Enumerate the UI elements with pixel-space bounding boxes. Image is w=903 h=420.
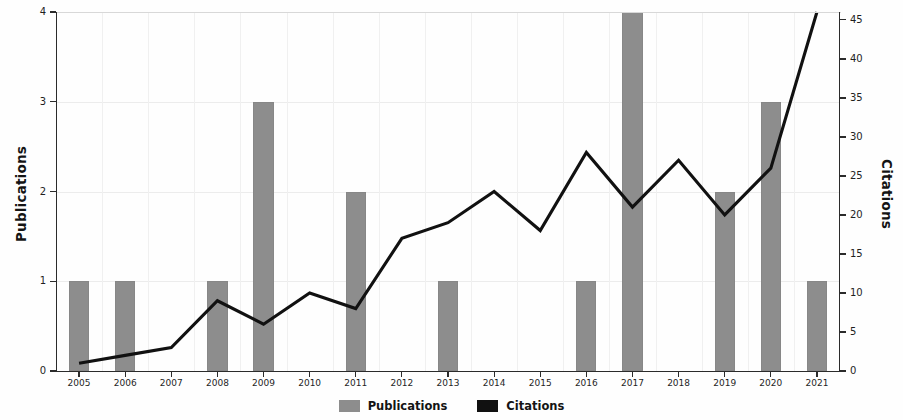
y-axis-right-tick	[840, 175, 846, 176]
x-axis-ticklabel-2012: 2012	[382, 379, 422, 388]
y-axis-left-tick	[50, 191, 56, 192]
y-axis-right-ticklabel: 20	[850, 210, 876, 220]
y-axis-right-ticklabel: 45	[850, 15, 876, 25]
x-axis-ticklabel-2021: 2021	[797, 379, 837, 388]
y-axis-right-tick	[840, 253, 846, 254]
x-axis-tick	[586, 371, 587, 377]
x-axis-ticklabel-2015: 2015	[520, 379, 560, 388]
line-series-citations	[56, 12, 840, 371]
legend-swatch-icon	[477, 400, 498, 412]
y-axis-left-tick	[50, 370, 56, 371]
y-axis-right-ticklabel: 25	[850, 171, 876, 181]
x-axis-ticklabel-2018: 2018	[659, 379, 699, 388]
legend-entry-publications: Publications	[339, 399, 448, 413]
legend-label: Publications	[368, 399, 448, 413]
y-axis-left-ticklabel: 3	[24, 97, 46, 107]
x-axis-ticklabel-2020: 2020	[751, 379, 791, 388]
x-axis-tick	[724, 371, 725, 377]
x-axis-ticklabel-2014: 2014	[474, 379, 514, 388]
x-axis-tick	[678, 371, 679, 377]
x-axis-tick	[78, 371, 79, 377]
x-axis-ticklabel-2007: 2007	[151, 379, 191, 388]
y-axis-right-title: Citations	[879, 129, 895, 259]
x-axis-ticklabel-2005: 2005	[59, 379, 99, 388]
x-axis-tick	[263, 371, 264, 377]
y-axis-right-tick	[840, 214, 846, 215]
x-axis-ticklabel-2011: 2011	[336, 379, 376, 388]
y-axis-right-tick	[840, 370, 846, 371]
x-axis-ticklabel-2010: 2010	[290, 379, 330, 388]
y-axis-left-tick	[50, 281, 56, 282]
x-axis-tick	[171, 371, 172, 377]
y-axis-right-ticklabel: 0	[850, 366, 876, 376]
y-axis-right-ticklabel: 10	[850, 288, 876, 298]
y-axis-left-ticklabel: 4	[24, 7, 46, 17]
x-axis-tick	[309, 371, 310, 377]
x-axis-ticklabel-2017: 2017	[612, 379, 652, 388]
y-axis-left-ticklabel: 0	[24, 366, 46, 376]
x-axis-ticklabel-2008: 2008	[197, 379, 237, 388]
legend-entry-citations: Citations	[477, 399, 564, 413]
y-axis-right-ticklabel: 5	[850, 327, 876, 337]
x-axis-tick	[401, 371, 402, 377]
plot-border-top	[56, 12, 841, 13]
x-axis-tick	[816, 371, 817, 377]
y-axis-right-ticklabel: 40	[850, 54, 876, 64]
legend-swatch-icon	[339, 400, 360, 412]
y-axis-left-tick	[50, 11, 56, 12]
y-axis-left-ticklabel: 2	[24, 187, 46, 197]
y-axis-left-spine	[56, 12, 57, 372]
chart-legend: PublicationsCitations	[0, 399, 903, 413]
x-axis-tick	[447, 371, 448, 377]
y-axis-right-ticklabel: 35	[850, 93, 876, 103]
legend-label: Citations	[506, 399, 564, 413]
y-axis-left-tick	[50, 101, 56, 102]
y-axis-right-ticklabel: 15	[850, 249, 876, 259]
x-axis-tick	[125, 371, 126, 377]
y-axis-right-tick	[840, 331, 846, 332]
x-axis-ticklabel-2009: 2009	[244, 379, 284, 388]
x-axis-tick	[540, 371, 541, 377]
x-axis-tick	[770, 371, 771, 377]
y-axis-right-spine	[839, 12, 840, 372]
x-axis-ticklabel-2016: 2016	[566, 379, 606, 388]
x-axis-tick	[632, 371, 633, 377]
y-axis-right-tick	[840, 19, 846, 20]
x-axis-ticklabel-2006: 2006	[105, 379, 145, 388]
y-axis-right-tick	[840, 58, 846, 59]
x-axis-tick	[494, 371, 495, 377]
y-axis-right-tick	[840, 136, 846, 137]
x-axis-ticklabel-2013: 2013	[428, 379, 468, 388]
y-axis-right-tick	[840, 292, 846, 293]
y-axis-right-ticklabel: 30	[850, 132, 876, 142]
plot-area	[56, 12, 840, 371]
y-axis-right-tick	[840, 97, 846, 98]
x-axis-ticklabel-2019: 2019	[705, 379, 745, 388]
y-axis-left-ticklabel: 1	[24, 276, 46, 286]
publications-citations-chart: Publications Citations 01234051015202530…	[0, 0, 903, 420]
x-axis-tick	[217, 371, 218, 377]
x-axis-tick	[355, 371, 356, 377]
